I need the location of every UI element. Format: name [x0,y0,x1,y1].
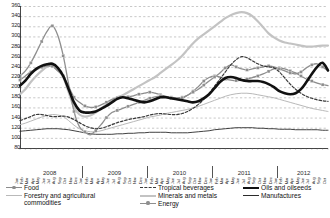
series-marker-energy [278,67,281,70]
year-separator [277,166,278,178]
legend-swatch-minerals_metals [140,192,156,199]
series-marker-energy [310,63,313,66]
x-axis-years: 20082009201020112012 [0,168,330,182]
series-marker-energy [224,66,227,69]
series-marker-energy [40,40,43,43]
legend-label-manufactures: Manufactures [261,192,301,199]
series-marker-energy [29,61,32,64]
y-tick-label: 340 [0,13,20,19]
legend-swatch-food [6,184,22,191]
series-marker-energy [148,97,151,100]
y-tick-label: 300 [0,33,20,39]
legend-item-oils_oilseeds[interactable]: Oils and oilseeds [243,184,311,191]
series-minerals_metals [20,12,328,117]
legend-swatch-forestry [6,192,22,199]
y-tick-label: 180 [0,94,20,100]
series-marker-food [83,104,86,107]
series-marker-energy [94,129,97,132]
y-tick-label: 260 [0,54,20,60]
y-tick-label: 120 [0,125,20,131]
legend-swatch-manufactures [243,192,259,199]
year-separator [82,166,83,178]
plot-svg [0,0,330,160]
legend-label-food: Food [24,184,39,191]
year-separator [212,166,213,178]
series-line-manufactures [20,128,328,135]
y-tick-label: 240 [0,64,20,70]
x-axis-year-label: 2012 [279,170,328,177]
legend-label-tropical_beverages: Tropical beverages [158,184,214,191]
legend-label-oils_oilseeds: Oils and oilseeds [261,184,311,191]
legend-column: Oils and oilseedsManufactures [243,184,311,200]
series-marker-food [148,91,151,94]
legend-swatch-oils_oilseeds [243,184,259,191]
series-marker-food [202,80,205,83]
series-marker-energy [83,130,86,133]
legend-column: Tropical beveragesMinerals and metalsEne… [140,184,217,208]
legend-swatch-energy [140,200,156,207]
legend-item-tropical_beverages[interactable]: Tropical beverages [140,184,217,191]
series-marker-energy [235,65,238,68]
commodity-price-index-chart: 3603403203002802602402202001801601401201… [0,0,330,218]
y-tick-label: 160 [0,104,20,110]
x-axis-year-label: 2011 [215,170,274,177]
legend-item-manufactures[interactable]: Manufactures [243,192,311,199]
series-marker-energy [299,70,302,73]
legend-swatch-tropical_beverages [140,184,156,191]
series-line-minerals_metals [20,12,328,117]
series-marker-energy [213,76,216,79]
legend-column: FoodForestry and agricultural commoditie… [6,184,95,207]
y-tick-label: 360 [0,3,20,9]
series-manufactures [20,128,328,135]
y-tick-label: 140 [0,115,20,121]
legend-item-food[interactable]: Food [6,184,95,191]
series-marker-energy [321,65,324,68]
x-axis-year-label: 2008 [20,170,79,177]
series-marker-energy [51,24,54,27]
series-marker-food [321,83,324,86]
series-marker-energy [202,84,205,87]
legend-marker-food [12,186,15,189]
series-marker-food [267,70,270,73]
gridlines [20,7,328,149]
legend-label-energy: Energy [158,200,179,207]
series-marker-energy [191,91,194,94]
series-marker-energy [245,68,248,71]
series-marker-food [105,101,108,104]
y-tick-label: 320 [0,23,20,29]
series-marker-food [256,74,259,77]
series-marker-food [137,93,140,96]
series-food [19,65,329,109]
series-marker-energy [73,110,76,113]
legend-label-forestry: Forestry and agricultural commodities [24,192,95,207]
legend-item-minerals_metals[interactable]: Minerals and metals [140,192,217,199]
series-marker-energy [116,109,119,112]
y-tick-label: 280 [0,44,20,50]
legend-item-forestry[interactable]: Forestry and agricultural commodities [6,192,95,207]
series-marker-energy [127,105,130,108]
series-marker-energy [105,116,108,119]
chart-legend: FoodForestry and agricultural commoditie… [0,184,330,218]
series-marker-food [94,105,97,108]
year-separator [147,166,148,178]
legend-marker-energy [146,201,149,204]
series-marker-energy [62,54,65,57]
y-tick-label: 200 [0,84,20,90]
legend-item-energy[interactable]: Energy [140,200,217,207]
x-axis-year-label: 2009 [85,170,144,177]
series-marker-energy [289,71,292,74]
y-axis: 3603403203002802602402202001801601401201… [0,0,20,160]
legend-label-minerals_metals: Minerals and metals [158,192,217,199]
plot-area [0,0,330,160]
x-axis-year-label: 2010 [150,170,209,177]
y-tick-label: 220 [0,74,20,80]
series-marker-energy [256,66,259,69]
series-marker-food [310,80,313,83]
y-tick-label: 100 [0,135,20,141]
series-marker-food [299,74,302,77]
